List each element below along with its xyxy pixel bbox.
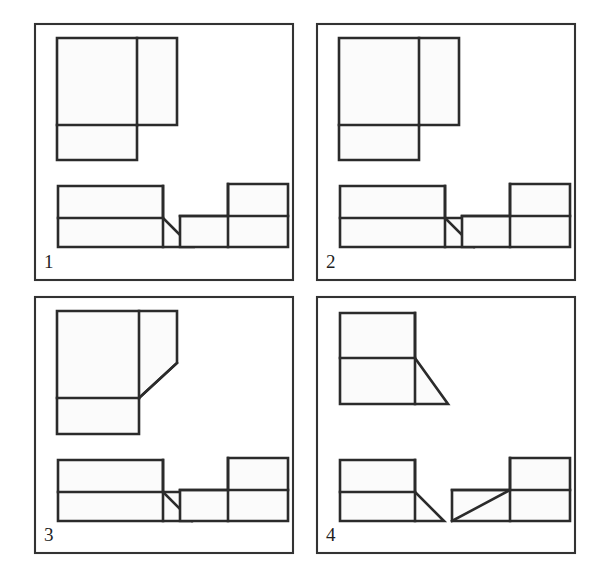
panel-number-label: 3 xyxy=(44,524,54,545)
panel-number-label: 2 xyxy=(326,251,336,272)
panel-3[interactable]: 3 xyxy=(35,297,293,553)
panel-1[interactable]: 1 xyxy=(35,24,293,280)
panel-2[interactable]: 2 xyxy=(317,24,575,280)
figure-root: 1234 xyxy=(0,0,605,582)
panel-number-label: 1 xyxy=(44,251,54,272)
panel-number-label: 4 xyxy=(326,524,336,545)
panel-4[interactable]: 4 xyxy=(317,297,575,553)
projection-figure: 1234 xyxy=(0,0,605,582)
